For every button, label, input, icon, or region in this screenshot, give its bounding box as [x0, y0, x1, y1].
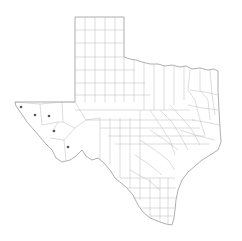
marker-dot [53, 130, 56, 133]
state-outline [15, 17, 221, 225]
marker-dot [48, 115, 51, 118]
marker-dot [20, 106, 23, 109]
marker-dot [34, 114, 37, 117]
texas-county-map [0, 0, 242, 241]
marker-dot [67, 146, 70, 149]
